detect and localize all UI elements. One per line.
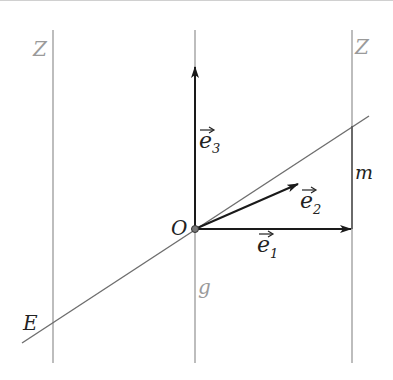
- svg-text:1: 1: [270, 246, 278, 261]
- label-e3: e 3: [199, 127, 220, 156]
- label-z-right: Z: [354, 35, 370, 59]
- label-origin: O: [171, 216, 187, 240]
- svg-text:2: 2: [312, 202, 321, 217]
- label-e1: e 1: [257, 231, 278, 261]
- label-e-line: E: [22, 311, 38, 335]
- vector-e2: [195, 184, 298, 229]
- origin-point: [192, 226, 199, 233]
- label-z-left: Z: [32, 37, 48, 61]
- svg-text:e: e: [300, 188, 313, 213]
- label-g: g: [198, 275, 211, 299]
- svg-text:e: e: [199, 128, 212, 153]
- label-m: m: [355, 161, 373, 183]
- svg-text:e: e: [257, 232, 270, 257]
- svg-text:3: 3: [212, 141, 220, 156]
- vector-diagram: Z Z g m E O e 3 e 2 e 1: [0, 0, 393, 380]
- label-e2: e 2: [300, 187, 321, 217]
